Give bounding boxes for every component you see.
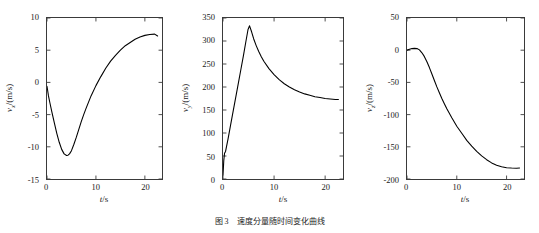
- x-tick-marks-vz: [407, 18, 507, 179]
- y-tick-label: 10: [31, 13, 40, 22]
- x-tick-label: 10: [452, 183, 461, 192]
- y-tick-label: 50: [207, 152, 216, 161]
- y-tick-label: 0: [35, 78, 39, 87]
- y-tick-marks-vz: [407, 18, 524, 179]
- x-tick-label: 20: [322, 183, 331, 192]
- x-axis-label-vy: t/s: [279, 195, 288, 204]
- x-tick-label: 10: [92, 183, 101, 192]
- y-tick-label: 150: [202, 106, 215, 115]
- x-tick-label: 0: [404, 183, 408, 192]
- y-tick-label: 50: [391, 13, 400, 22]
- x-tick-label: 20: [503, 183, 512, 192]
- x-axis-label-vx: t/s: [100, 195, 109, 204]
- y-tick-label: -5: [32, 111, 39, 120]
- y-tick-label: 250: [202, 59, 215, 68]
- y-tick-label: -10: [28, 143, 39, 152]
- x-tick-label: 0: [220, 183, 224, 192]
- y-tick-label: 200: [202, 83, 215, 92]
- y-tick-label: -50: [388, 78, 399, 87]
- figure-three-velocity-plots: 1050-5-10-15 01020 t/s vx/(m/s) 35030025…: [0, 0, 539, 233]
- plot-frame-vx: [46, 17, 163, 180]
- series-line-vz: [407, 48, 520, 168]
- x-axis-label-vz: t/s: [461, 195, 470, 204]
- y-tick-label: -15: [28, 176, 39, 185]
- y-axis-label-vz: vz/(m/s): [365, 73, 377, 123]
- y-axis-label-vy: vy/(m/s): [181, 73, 193, 123]
- y-axis-label-vx: vx/(m/s): [5, 73, 17, 123]
- figure-caption: 图 3 速度分量随时间变化曲线: [0, 216, 539, 227]
- y-tick-label: -100: [383, 111, 399, 120]
- series-line-vy: [223, 26, 338, 175]
- plot-curve-vy: [223, 18, 343, 179]
- x-tick-label: 20: [141, 183, 150, 192]
- plot-curve-vz: [407, 18, 524, 179]
- y-tick-label: -150: [383, 143, 399, 152]
- y-tick-labels-vy: 350300250200150100500: [172, 0, 219, 163]
- x-tick-marks-vy: [223, 18, 325, 179]
- y-tick-label: -200: [383, 176, 399, 185]
- y-tick-label: 350: [202, 13, 215, 22]
- x-tick-label: 10: [270, 183, 279, 192]
- plot-frame-vz: [406, 17, 525, 180]
- plot-curve-vx: [47, 18, 162, 179]
- y-tick-label: 100: [202, 129, 215, 138]
- y-tick-label: 5: [35, 45, 39, 54]
- plot-frame-vy: [222, 17, 344, 180]
- y-tick-marks-vx: [47, 18, 162, 179]
- plot-panel-vx: 1050-5-10-15 01020 t/s vx/(m/s): [0, 0, 172, 215]
- x-tick-label: 0: [44, 183, 48, 192]
- y-tick-label: 0: [395, 45, 399, 54]
- plot-panel-vy: 350300250200150100500 01020 t/s vy/(m/s): [172, 0, 358, 215]
- plot-panel-vz: 500-50-100-150-200 01020 t/s vz/(m/s): [358, 0, 539, 215]
- series-line-vx: [47, 34, 158, 155]
- y-tick-label: 300: [202, 36, 215, 45]
- y-tick-label: 0: [211, 176, 215, 185]
